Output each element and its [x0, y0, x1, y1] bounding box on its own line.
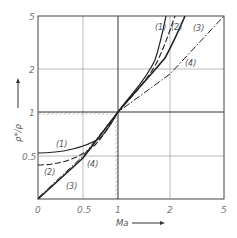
- label-curve-4-top: (4): [185, 59, 196, 68]
- label-curve-1-bottom: (1): [56, 140, 67, 149]
- label-curve-2-bottom: (2): [44, 168, 55, 177]
- label-curve-1-top: (1): [155, 23, 166, 32]
- y-tick-0.5: 0.5: [22, 152, 37, 162]
- chart: 5 2 1 0.5 0 0.5 1 2 5 Ma ρ*/ρ (1) (2) (3…: [0, 0, 237, 238]
- label-curve-3-top: (3): [193, 24, 204, 33]
- x-tick-0.5: 0.5: [77, 205, 92, 215]
- label-curve-4-bottom: (4): [87, 160, 98, 169]
- x-tick-1: 1: [115, 205, 121, 215]
- curve-3: [38, 16, 185, 199]
- curve-4: [38, 16, 224, 198]
- x-tick-2: 2: [167, 205, 173, 215]
- x-tick-5: 5: [221, 205, 227, 215]
- x-axis-arrow: [132, 221, 165, 225]
- y-tick-5: 5: [29, 12, 35, 22]
- label-curve-2-top: (2): [171, 23, 182, 32]
- y-axis-arrow: [16, 78, 20, 108]
- y-tick-1: 1: [29, 108, 35, 118]
- y-tick-2: 2: [29, 65, 35, 75]
- x-tick-0: 0: [35, 205, 41, 215]
- y-axis-label: ρ*/ρ: [13, 123, 23, 142]
- label-curve-3-bottom: (3): [66, 182, 77, 191]
- x-axis-label: Ma: [116, 218, 129, 228]
